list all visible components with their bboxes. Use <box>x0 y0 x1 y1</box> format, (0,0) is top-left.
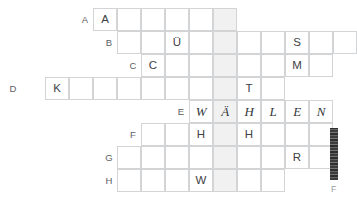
crossword-cell[interactable] <box>261 169 285 192</box>
crossword-cell[interactable] <box>285 54 309 77</box>
crossword-cell[interactable] <box>261 54 285 77</box>
crossword-cell[interactable] <box>117 169 141 192</box>
crossword-cell[interactable] <box>213 169 237 192</box>
row-label-a: A <box>78 8 92 31</box>
crossword-cell[interactable] <box>165 8 189 31</box>
row-label-f: F <box>126 123 140 146</box>
crossword-cell[interactable] <box>213 31 237 54</box>
crossword-cell[interactable] <box>93 8 117 31</box>
crossword-cell[interactable] <box>165 169 189 192</box>
crossword-cell[interactable] <box>237 54 261 77</box>
row-label-d: D <box>6 77 20 100</box>
crossword-cell[interactable] <box>237 123 261 146</box>
crossword-cell[interactable] <box>189 31 213 54</box>
crossword-cell[interactable] <box>309 54 333 77</box>
crossword-cell[interactable] <box>213 123 237 146</box>
crossword-cell[interactable] <box>309 31 333 54</box>
crossword-cell[interactable] <box>141 123 165 146</box>
crossword-cell[interactable] <box>165 146 189 169</box>
crossword-cell[interactable] <box>189 146 213 169</box>
crossword-cell[interactable] <box>213 54 237 77</box>
crossword-cell[interactable] <box>141 31 165 54</box>
crossword-cell[interactable] <box>285 146 309 169</box>
crossword-cell[interactable] <box>141 54 165 77</box>
crossword-cell[interactable] <box>189 54 213 77</box>
crossword-cell[interactable] <box>117 146 141 169</box>
crossword-cell[interactable] <box>309 100 333 123</box>
crossword-cell[interactable] <box>261 100 285 123</box>
crossword-cell[interactable] <box>189 77 213 100</box>
crossword-cell[interactable] <box>141 77 165 100</box>
crossword-cell[interactable] <box>237 77 261 100</box>
crossword-cell[interactable] <box>261 146 285 169</box>
crossword-cell[interactable] <box>285 100 309 123</box>
crossword-cell[interactable] <box>117 77 141 100</box>
crossword-cell[interactable] <box>189 169 213 192</box>
crossword-cell[interactable] <box>93 77 117 100</box>
crossword-cell[interactable] <box>213 8 237 31</box>
row-label-c: C <box>126 54 140 77</box>
crossword-cell[interactable] <box>333 31 357 54</box>
crossword-cell[interactable] <box>213 100 237 123</box>
crossword-cell[interactable] <box>237 31 261 54</box>
crossword-cell[interactable] <box>165 54 189 77</box>
row-label-b: B <box>102 31 116 54</box>
crossword-cell[interactable] <box>213 77 237 100</box>
crossword-cell[interactable] <box>117 31 141 54</box>
crossword-cell[interactable] <box>213 146 237 169</box>
crossword-cell[interactable] <box>165 77 189 100</box>
crossword-cell[interactable] <box>165 31 189 54</box>
row-label-h: H <box>102 169 116 192</box>
crossword-cell[interactable] <box>165 123 189 146</box>
crossword-cell[interactable] <box>285 31 309 54</box>
crossword-cell[interactable] <box>141 8 165 31</box>
crossword-cell[interactable] <box>237 100 261 123</box>
crossword-cell[interactable] <box>189 123 213 146</box>
crossword-cell[interactable] <box>261 123 285 146</box>
crossword-cell[interactable] <box>261 31 285 54</box>
crossword-cell[interactable] <box>141 169 165 192</box>
crossword-cell[interactable] <box>261 77 285 100</box>
crossword-cell[interactable] <box>69 77 93 100</box>
crossword-cell[interactable] <box>285 123 309 146</box>
crossword-cell[interactable] <box>237 146 261 169</box>
crossword-cell[interactable] <box>141 146 165 169</box>
crossword-cell[interactable] <box>237 169 261 192</box>
crossword-cell[interactable] <box>189 100 213 123</box>
crossword-cell[interactable] <box>117 8 141 31</box>
crossword-cell[interactable] <box>45 77 69 100</box>
crossword-cell[interactable] <box>189 8 213 31</box>
page-edge-artifact <box>330 128 338 180</box>
row-label-g: G <box>102 146 116 169</box>
edge-glyph-label: F <box>331 184 337 194</box>
row-label-e: E <box>174 100 188 123</box>
